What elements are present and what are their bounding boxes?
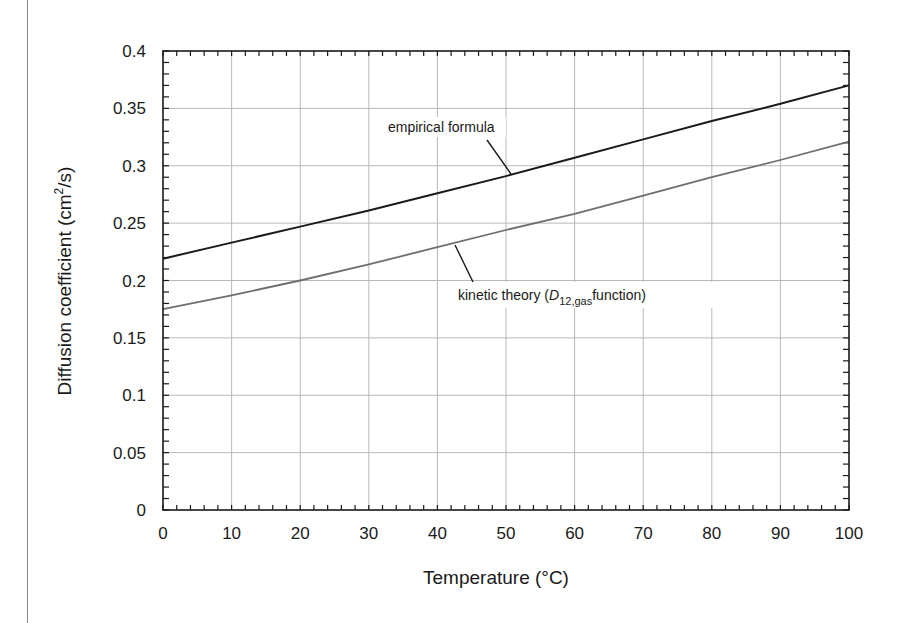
y-tick-label: 0.35 (113, 99, 146, 118)
y-tick-label: 0.4 (122, 42, 146, 61)
diffusion-chart: empirical formulakinetic theory (D12,gas… (0, 0, 917, 623)
x-tick-label: 50 (497, 524, 516, 543)
x-tick-label: 10 (222, 524, 241, 543)
x-tick-label: 90 (771, 524, 790, 543)
y-tick-label: 0 (137, 501, 146, 520)
x-axis-tick-labels: 0102030405060708090100 (158, 524, 863, 543)
y-tick-label: 0.25 (113, 214, 146, 233)
x-tick-label: 0 (158, 524, 167, 543)
y-axis-tick-labels: 00.050.10.150.20.250.30.350.4 (113, 42, 146, 520)
annotations: empirical formulakinetic theory (D12,gas… (376, 117, 713, 308)
x-tick-label: 100 (835, 524, 863, 543)
x-tick-label: 20 (291, 524, 310, 543)
x-tick-label: 80 (702, 524, 721, 543)
x-tick-label: 70 (634, 524, 653, 543)
y-tick-label: 0.3 (122, 157, 146, 176)
y-tick-label: 0.1 (122, 386, 146, 405)
empirical-formula-leader (487, 140, 511, 174)
y-tick-label: 0.15 (113, 329, 146, 348)
x-tick-label: 60 (565, 524, 584, 543)
y-tick-label: 0.05 (113, 444, 146, 463)
empirical-formula-label: empirical formula (388, 119, 495, 135)
x-axis-title: Temperature (°C) (423, 567, 569, 588)
kinetic-theory-leader (455, 245, 473, 282)
y-axis-title: Diffusion coefficient (cm2/s) (52, 167, 75, 396)
x-tick-label: 40 (428, 524, 447, 543)
x-tick-label: 30 (359, 524, 378, 543)
y-tick-label: 0.2 (122, 272, 146, 291)
